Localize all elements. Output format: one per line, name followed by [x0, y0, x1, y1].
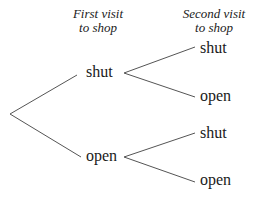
- branch-root-to-open: [10, 114, 81, 157]
- branch-shut-to-shut: [124, 47, 195, 73]
- probability-tree-diagram: First visit to shop Second visit to shop…: [0, 0, 254, 198]
- node-shut-shut: shut: [200, 39, 227, 57]
- branch-open-to-open: [124, 157, 195, 182]
- node-open-open: open: [200, 171, 231, 189]
- node-open-shut: shut: [200, 124, 227, 142]
- node-first-shut: shut: [86, 63, 113, 81]
- branch-root-to-shut: [10, 75, 77, 114]
- branch-shut-to-open: [124, 73, 195, 97]
- branch-open-to-shut: [124, 133, 195, 157]
- node-first-open: open: [86, 147, 117, 165]
- node-shut-open: open: [200, 87, 231, 105]
